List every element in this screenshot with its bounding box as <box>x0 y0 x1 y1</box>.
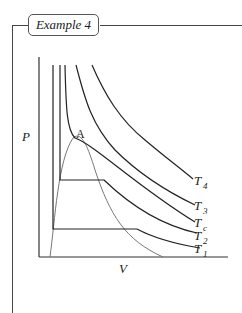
svg-text:4: 4 <box>203 181 208 191</box>
svg-text:2: 2 <box>203 236 208 246</box>
pv-diagram: P V A T 4 T 3 T c T 2 T 1 <box>0 0 242 313</box>
isotherm-t2 <box>60 65 197 233</box>
coexistence-curve <box>50 136 163 257</box>
svg-text:1: 1 <box>203 249 208 259</box>
x-axis-label: V <box>119 261 129 276</box>
svg-text:c: c <box>203 223 207 233</box>
y-axis-label: P <box>21 129 30 144</box>
svg-text:3: 3 <box>202 206 208 216</box>
svg-text:T: T <box>194 198 202 213</box>
isotherm-t1 <box>53 65 200 248</box>
isotherm-label-t4: T 4 <box>194 173 208 191</box>
critical-point-label: A <box>76 127 85 141</box>
isotherm-t3 <box>76 65 195 205</box>
isotherm-label-t3: T 3 <box>194 198 208 216</box>
svg-text:T: T <box>194 173 202 188</box>
isotherm-tc <box>65 65 195 222</box>
svg-text:T: T <box>194 241 202 256</box>
isotherm-t4 <box>92 65 193 179</box>
